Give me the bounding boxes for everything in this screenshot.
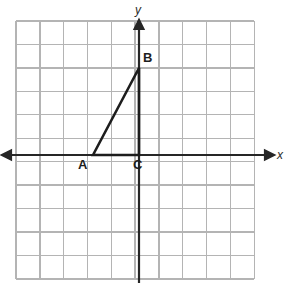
x-axis-label: x [277, 149, 283, 161]
grid-lines [16, 21, 254, 279]
vertex-label-b: B [143, 51, 152, 64]
x-axis-left-arrowhead [2, 151, 11, 160]
vertex-label-a: A [78, 158, 87, 171]
vertex-label-c: C [133, 158, 142, 171]
triangle-abc [93, 68, 139, 155]
triangle-outline [93, 68, 139, 155]
y-axis-label: y [135, 4, 141, 16]
x-axis-right-arrowhead [265, 151, 274, 160]
coordinate-plane-svg [0, 0, 286, 285]
coordinate-plane-figure: A B C x y [0, 0, 286, 285]
